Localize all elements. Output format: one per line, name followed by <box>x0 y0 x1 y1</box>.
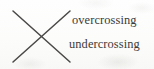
knot-crossing-figure: overcrossing undercrossing <box>0 0 154 69</box>
undercrossing-label: undercrossing <box>69 38 140 50</box>
crossing-diagram <box>0 0 154 69</box>
overcrossing-label: overcrossing <box>72 14 137 26</box>
